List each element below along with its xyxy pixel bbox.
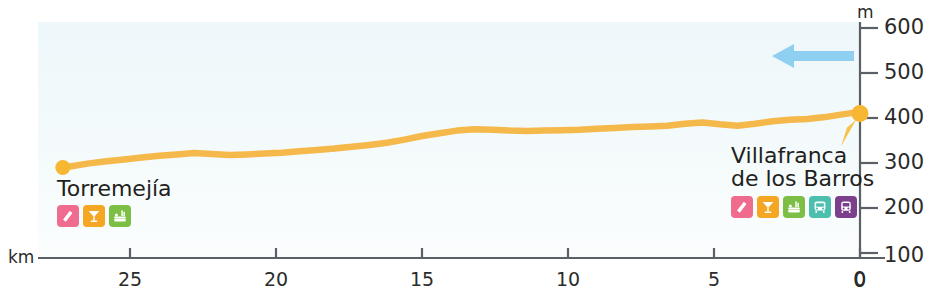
picnic-icon[interactable] <box>109 205 131 227</box>
y-axis-ticks <box>860 28 878 253</box>
town-label-villafranca-line1: Villafranca <box>731 144 874 167</box>
town-label-torremejia: Torremejía <box>57 177 172 200</box>
bar-icon[interactable] <box>83 205 105 227</box>
town-amenity-icons-torremejia <box>57 205 172 227</box>
y-axis-unit: m <box>857 2 874 22</box>
y-tick-label-100: 100 <box>884 243 924 267</box>
y-tick-label-500: 500 <box>884 60 924 84</box>
train-icon[interactable] <box>835 196 857 218</box>
y-tick-label-400: 400 <box>884 105 924 129</box>
town-label-villafranca-line2: de los Barros <box>731 167 874 190</box>
x-tick-label-25: 25 <box>118 268 142 290</box>
x-tick-label-15: 15 <box>410 268 434 290</box>
town-amenity-icons-villafranca <box>731 196 874 218</box>
town-marker-torremejia[interactable]: Torremejía <box>57 177 172 227</box>
town-marker-villafranca[interactable]: Villafranca de los Barros <box>731 144 874 218</box>
direction-arrow-icon <box>772 41 854 71</box>
y-tick-label-300: 300 <box>884 150 924 174</box>
y-tick-label-200: 200 <box>884 195 924 219</box>
lodging-icon[interactable] <box>731 196 753 218</box>
x-tick-label-20: 20 <box>264 268 288 290</box>
lodging-icon[interactable] <box>57 205 79 227</box>
x-axis-ticks <box>130 248 860 258</box>
x-axis-unit: km <box>8 247 34 267</box>
bar-icon[interactable] <box>757 196 779 218</box>
x-tick-label-10: 10 <box>556 268 580 290</box>
elevation-profile-figure: m 600 500 400 300 200 100 0 km 25 20 15 … <box>0 0 927 301</box>
y-tick-label-600: 600 <box>884 15 924 39</box>
x-tick-label-0: 0 <box>854 268 866 290</box>
picnic-icon[interactable] <box>783 196 805 218</box>
x-tick-label-5: 5 <box>708 268 720 290</box>
bus-icon[interactable] <box>809 196 831 218</box>
